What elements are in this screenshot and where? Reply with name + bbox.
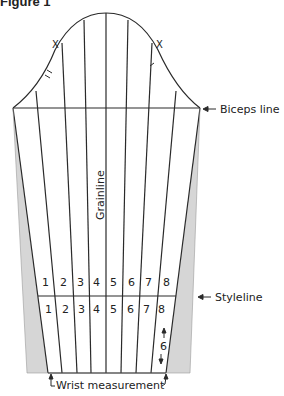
wrist-measurement-label: Wrist measurement: [56, 379, 165, 392]
difference-down-arrow-icon: [159, 354, 163, 364]
slash-line-5: [121, 20, 128, 373]
sleeve-pattern-diagram: X X Biceps line Styleline Grainline 1 2 …: [0, 0, 284, 396]
upper-panel-8: 8: [163, 276, 170, 289]
right-notch-x: X: [156, 39, 163, 50]
upper-panel-7: 7: [145, 276, 152, 289]
lower-panel-1: 1: [45, 303, 52, 316]
upper-panel-4: 4: [93, 276, 100, 289]
lower-panel-4: 4: [93, 303, 100, 316]
wrist-left-bracket-icon: [49, 374, 55, 386]
lower-panel-5: 5: [110, 303, 117, 316]
biceps-line-label: Biceps line: [220, 103, 280, 116]
upper-panel-1: 1: [42, 276, 49, 289]
grainline-label: Grainline: [94, 170, 107, 220]
slash-line-3: [84, 20, 91, 373]
upper-panel-2: 2: [60, 276, 67, 289]
difference-up-arrow-icon: [162, 328, 166, 338]
lower-panel-numbers: 1 2 3 4 5 6 7 8: [45, 303, 165, 316]
upper-panel-5: 5: [110, 276, 117, 289]
lower-panel-7: 7: [143, 303, 150, 316]
slash-line-2: [62, 43, 77, 373]
difference-value: 6: [160, 340, 167, 353]
styleline-label: Styleline: [215, 291, 263, 304]
styleline-arrow-icon: [198, 295, 211, 300]
lower-panel-8: 8: [158, 303, 165, 316]
lower-panel-3: 3: [78, 303, 85, 316]
upper-panel-6: 6: [128, 276, 135, 289]
upper-panel-3: 3: [77, 276, 84, 289]
left-notch-marks: [45, 70, 52, 78]
lower-panel-6: 6: [127, 303, 134, 316]
biceps-line-arrow-icon: [203, 107, 216, 112]
lower-panel-2: 2: [62, 303, 69, 316]
left-notch-x: X: [52, 39, 59, 50]
slash-line-6: [136, 43, 152, 373]
